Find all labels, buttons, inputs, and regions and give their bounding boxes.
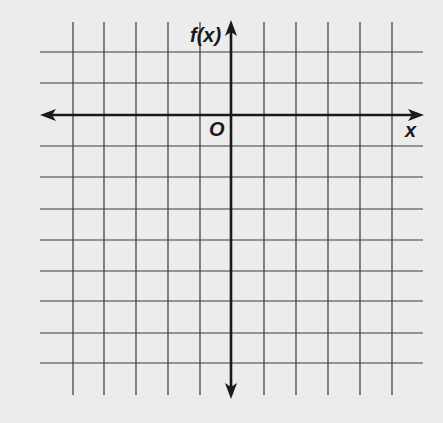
x-axis-label: x — [404, 119, 417, 141]
origin-label: O — [209, 118, 225, 140]
coordinate-grid: f(x) O x — [0, 0, 443, 423]
y-axis-label: f(x) — [190, 24, 221, 46]
